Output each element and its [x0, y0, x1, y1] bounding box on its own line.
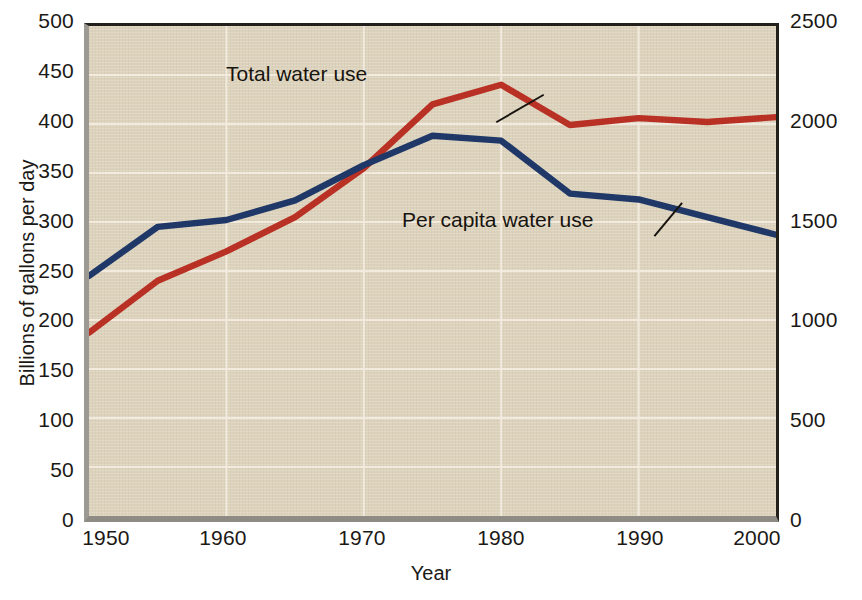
y-axis-left-title: Billions of gallons per day	[16, 159, 39, 386]
annotation-leader-lines	[89, 26, 776, 516]
x-tick-1950: 1950	[71, 526, 141, 550]
y-tick-left-0: 0	[0, 508, 74, 532]
plot-area	[84, 23, 779, 522]
x-tick-1970: 1970	[327, 526, 397, 550]
y-tick-left-100: 100	[0, 408, 74, 432]
series-label-total-water-use: Total water use	[226, 62, 367, 86]
y-tick-left-500: 500	[0, 9, 74, 33]
x-tick-1990: 1990	[605, 526, 675, 550]
x-tick-2000: 2000	[722, 526, 792, 550]
series-label-per-capita-water-use: Per capita water use	[402, 208, 593, 232]
y-tick-right-2000: 2000	[790, 109, 838, 133]
y-tick-right-2500: 2500	[790, 9, 838, 33]
y-tick-right-1500: 1500	[790, 209, 838, 233]
figure-caption-cropped	[0, 588, 862, 600]
x-tick-1960: 1960	[188, 526, 258, 550]
x-axis-title: Year	[0, 562, 862, 585]
y-tick-right-1000: 1000	[790, 308, 838, 332]
y-tick-left-450: 450	[0, 59, 74, 83]
y-tick-left-50: 50	[0, 458, 74, 482]
y-tick-left-400: 400	[0, 109, 74, 133]
x-tick-1980: 1980	[466, 526, 536, 550]
water-use-chart-figure: 050100150200250300350400450500 050010001…	[0, 0, 862, 600]
y-tick-right-500: 500	[790, 408, 826, 432]
